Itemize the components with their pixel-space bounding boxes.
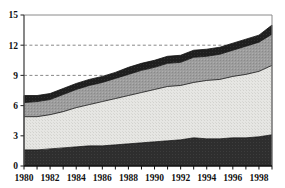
x-tick-label-1988: 1988 — [119, 173, 138, 183]
x-tick-label-1980: 1980 — [15, 173, 34, 183]
y-tick-label-12: 12 — [9, 41, 19, 51]
x-tick-label-1984: 1984 — [67, 173, 86, 183]
x-tick-label-1996: 1996 — [223, 173, 242, 183]
stacked-area-chart: 03691215 1980198219841986198819901992199… — [0, 0, 285, 188]
x-tick-label-1994: 1994 — [197, 173, 216, 183]
x-tick-label-1992: 1992 — [171, 173, 190, 183]
y-tick-label-0: 0 — [13, 161, 18, 171]
x-tick-label-1982: 1982 — [41, 173, 60, 183]
y-tick-label-15: 15 — [9, 10, 19, 20]
y-tick-label-9: 9 — [13, 71, 18, 81]
chart-canvas: 03691215 1980198219841986198819901992199… — [0, 0, 285, 188]
x-tick-label-1998: 1998 — [249, 173, 268, 183]
x-tick-label-1990: 1990 — [145, 173, 164, 183]
x-axis-tick-labels: 1980198219841986198819901992199419961998 — [15, 173, 269, 183]
y-tick-label-6: 6 — [13, 101, 18, 111]
x-tick-label-1986: 1986 — [93, 173, 112, 183]
y-tick-label-3: 3 — [13, 131, 18, 141]
y-axis-tick-labels: 03691215 — [9, 10, 19, 171]
